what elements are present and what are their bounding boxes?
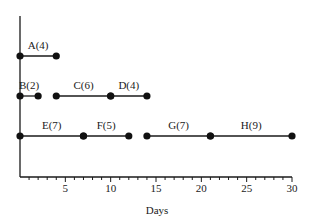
- activity-a: A(4): [16, 39, 59, 60]
- activity-c: C(6): [53, 79, 115, 100]
- activity-h: H(9): [207, 119, 296, 140]
- activity-e: E(7): [16, 119, 87, 140]
- activity-label: E(7): [42, 119, 62, 132]
- activity-label: B(2): [19, 79, 40, 92]
- start-node: [207, 132, 214, 139]
- start-node: [16, 92, 23, 99]
- activity-b: B(2): [16, 79, 41, 100]
- activity-rows: A(4)B(2)C(6)D(4)E(7)F(5)G(7)H(9): [16, 39, 295, 140]
- start-node: [143, 132, 150, 139]
- end-node: [35, 92, 42, 99]
- activity-label: F(5): [97, 119, 116, 132]
- tick-label: 25: [241, 182, 253, 194]
- activity-label: H(9): [241, 119, 262, 132]
- activity-row: A(4): [16, 39, 59, 60]
- activity-timeline-diagram: 51015202530 A(4)B(2)C(6)D(4)E(7)F(5)G(7)…: [0, 0, 313, 222]
- activity-label: A(4): [28, 39, 49, 52]
- tick-label: 10: [105, 182, 117, 194]
- end-node: [143, 92, 150, 99]
- activity-d: D(4): [107, 79, 150, 100]
- activity-label: C(6): [73, 79, 94, 92]
- activity-label: D(4): [118, 79, 139, 92]
- activity-label: G(7): [168, 119, 189, 132]
- start-node: [53, 92, 60, 99]
- activity-f: F(5): [80, 119, 133, 140]
- activity-row: B(2)C(6)D(4): [16, 79, 150, 100]
- axes: 51015202530: [20, 16, 298, 194]
- end-node: [53, 52, 60, 59]
- end-node: [125, 132, 132, 139]
- x-axis-label: Days: [146, 204, 169, 216]
- start-node: [107, 92, 114, 99]
- start-node: [16, 52, 23, 59]
- tick-label: 30: [287, 182, 299, 194]
- activity-row: E(7)F(5)G(7)H(9): [16, 119, 295, 140]
- tick-label: 15: [151, 182, 163, 194]
- start-node: [16, 132, 23, 139]
- end-node: [288, 132, 295, 139]
- activity-g: G(7): [143, 119, 214, 140]
- tick-label: 5: [63, 182, 69, 194]
- tick-label: 20: [196, 182, 208, 194]
- start-node: [80, 132, 87, 139]
